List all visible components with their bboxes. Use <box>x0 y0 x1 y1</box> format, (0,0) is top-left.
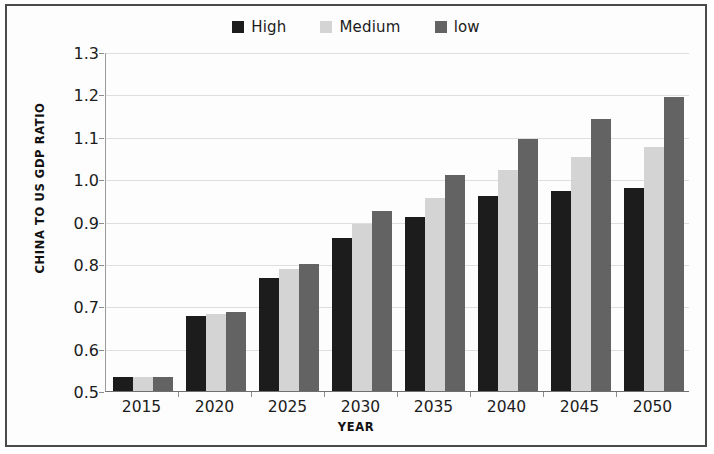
bar-group <box>252 53 325 391</box>
x-tick-label: 2040 <box>472 398 542 416</box>
bar-high <box>478 196 498 391</box>
y-tick-mark <box>99 95 104 96</box>
bar-group <box>398 53 471 391</box>
x-tick-mark <box>543 392 544 397</box>
legend-label-high: High <box>251 18 286 36</box>
bar-groups <box>106 53 689 391</box>
bar-high <box>259 278 279 391</box>
y-tick-label: 0.5 <box>53 383 99 402</box>
bar-group <box>179 53 252 391</box>
legend-item-medium: Medium <box>320 18 400 36</box>
bar-low <box>153 377 173 391</box>
y-axis-title: CHINA TO US GDP RATIO <box>33 68 47 308</box>
y-tick-label: 0.7 <box>53 298 99 317</box>
y-tick-mark <box>99 307 104 308</box>
bar-medium <box>279 269 299 391</box>
bar-group <box>544 53 617 391</box>
x-tick-label: 2030 <box>326 398 396 416</box>
y-tick-label: 1.1 <box>53 129 99 148</box>
y-tick-mark <box>99 392 104 393</box>
x-tick-mark <box>324 392 325 397</box>
y-tick-label: 1.2 <box>53 86 99 105</box>
bar-medium <box>571 157 591 391</box>
x-tick-mark <box>178 392 179 397</box>
y-tick-label: 1.3 <box>53 44 99 63</box>
legend-label-low: low <box>454 18 480 36</box>
x-tick-label: 2035 <box>399 398 469 416</box>
x-tick-label: 2025 <box>253 398 323 416</box>
y-tick-label: 1.0 <box>53 171 99 190</box>
bar-high <box>551 191 571 391</box>
y-tick-mark <box>99 53 104 54</box>
y-tick-mark <box>99 138 104 139</box>
chart-frame: High Medium low CHINA TO US GDP RATIO 1.… <box>5 4 707 447</box>
y-tick-mark <box>99 350 104 351</box>
bar-low <box>518 139 538 391</box>
x-tick-label: 2045 <box>545 398 615 416</box>
legend-item-high: High <box>232 18 286 36</box>
legend-label-medium: Medium <box>339 18 400 36</box>
legend-item-low: low <box>435 18 480 36</box>
bar-group <box>617 53 690 391</box>
y-tick-label: 0.8 <box>53 256 99 275</box>
bar-high <box>113 377 133 391</box>
bar-high <box>624 188 644 391</box>
y-tick-label: 0.6 <box>53 341 99 360</box>
x-tick-mark <box>251 392 252 397</box>
y-tick-mark <box>99 265 104 266</box>
y-axis-tick-labels: 1.31.21.11.00.90.80.70.60.5 <box>47 53 99 391</box>
legend-swatch-medium <box>320 21 332 33</box>
bar-group <box>106 53 179 391</box>
chart-legend: High Medium low <box>7 18 705 36</box>
legend-swatch-high <box>232 21 244 33</box>
bar-group <box>471 53 544 391</box>
bar-high <box>405 217 425 391</box>
x-tick-mark <box>470 392 471 397</box>
y-tick-label: 0.9 <box>53 214 99 233</box>
x-axis-title: YEAR <box>7 420 705 434</box>
x-tick-label: 2050 <box>618 398 688 416</box>
bar-medium <box>425 198 445 391</box>
x-tick-mark <box>616 392 617 397</box>
x-tick-mark <box>397 392 398 397</box>
bar-low <box>445 175 465 391</box>
plot-area <box>105 53 689 392</box>
bar-high <box>332 238 352 391</box>
bar-medium <box>644 147 664 392</box>
legend-swatch-low <box>435 21 447 33</box>
x-tick-label: 2020 <box>180 398 250 416</box>
bar-medium <box>133 377 153 391</box>
bar-medium <box>206 314 226 391</box>
y-tick-mark <box>99 223 104 224</box>
y-tick-mark <box>99 180 104 181</box>
bar-low <box>299 264 319 391</box>
bar-low <box>372 211 392 391</box>
bar-group <box>325 53 398 391</box>
bar-low <box>664 97 684 392</box>
bar-high <box>186 316 206 391</box>
bar-low <box>591 119 611 391</box>
bar-medium <box>498 170 518 391</box>
x-tick-label: 2015 <box>107 398 177 416</box>
bar-medium <box>352 224 372 391</box>
bar-low <box>226 312 246 391</box>
